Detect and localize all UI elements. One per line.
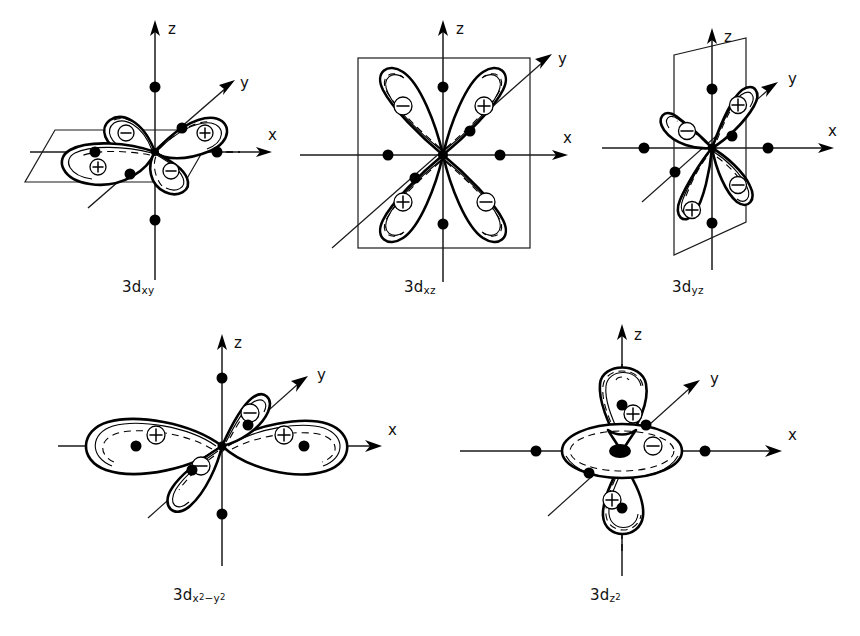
y-axis-label: y: [710, 370, 719, 388]
x-axis-label: x: [563, 129, 572, 147]
z-axis-label: z: [634, 326, 642, 344]
node-dot: [383, 150, 394, 161]
node-dot: [299, 441, 310, 452]
sign-lower-left: [684, 202, 701, 219]
orbital-label-sub: x2−y2: [192, 592, 225, 604]
orbital-label-dxz: 3dxz: [404, 278, 436, 296]
node-dot: [707, 84, 718, 95]
y-axis-label: y: [317, 366, 326, 384]
y-axis-arrowhead: [291, 376, 308, 392]
orbital-label-sub: z2: [609, 592, 620, 604]
origin-dot: [609, 444, 631, 458]
panel-dxy: z y x 3dxy: [0, 0, 290, 320]
node-dot: [584, 468, 595, 479]
origin-dot: [438, 150, 448, 160]
node-dot: [641, 420, 652, 431]
orbital-label-sub: yz: [691, 284, 703, 296]
x-axis-label: x: [788, 426, 797, 444]
sign-upper-right: [475, 97, 493, 115]
node-dot: [531, 446, 542, 457]
orbital-label-dx2y2: 3dx2−y2: [173, 586, 226, 604]
y-axis-label: y: [788, 70, 797, 88]
node-dot: [217, 373, 228, 384]
node-dot: [670, 167, 681, 178]
lobe-upper-right: [443, 68, 506, 155]
z-axis-label: z: [456, 20, 464, 38]
node-dot: [187, 465, 198, 476]
sign-ring-minus: [644, 437, 662, 455]
sign-upper-right: [730, 97, 747, 114]
node-dot: [217, 509, 228, 520]
node-dot: [243, 420, 254, 431]
node-dot: [125, 169, 136, 180]
orbital-label-base: 3d: [672, 278, 691, 296]
node-dot: [763, 143, 774, 154]
node-dot: [465, 126, 476, 137]
node-dot: [410, 173, 421, 184]
node-dot: [438, 82, 449, 93]
node-dot: [438, 219, 449, 230]
node-dot: [639, 143, 650, 154]
dx2y2-diagram: z y x: [40, 318, 440, 598]
x-axis-label: x: [388, 421, 397, 439]
sign-lower-left: [394, 193, 412, 211]
node-dot: [700, 446, 711, 457]
dz2-diagram: z y x: [440, 318, 840, 598]
y-axis-label: y: [240, 74, 249, 92]
dyz-diagram: z y x: [590, 0, 860, 300]
sign-lower-right: [477, 193, 495, 211]
x-axis-label: x: [828, 122, 837, 140]
node-dot: [495, 150, 506, 161]
z-axis-label: z: [724, 28, 732, 46]
dxy-diagram: z y x: [0, 0, 290, 300]
orbital-label-sub: xy: [141, 284, 154, 296]
orbital-label-dz2: 3dz2: [590, 586, 621, 604]
orbital-label-base: 3d: [590, 586, 609, 604]
node-dot: [617, 503, 628, 514]
sign-upper-left: [394, 97, 412, 115]
sign-right-plus: [275, 426, 293, 444]
sign-left-plus: [147, 426, 165, 444]
panel-dyz: z y x 3dyz: [590, 0, 860, 320]
node-dot: [212, 147, 223, 158]
node-dot: [150, 82, 161, 93]
sign-lower-left: [90, 159, 106, 175]
origin-dot: [151, 148, 159, 156]
orbital-label-dxy: 3dxy: [122, 278, 154, 296]
sign-upper-right: [197, 125, 213, 141]
x-axis-label: x: [268, 126, 277, 144]
y-axis-label: y: [558, 50, 567, 68]
sub-z-exp: 2: [615, 592, 621, 602]
origin-dot: [708, 144, 717, 153]
sign-upper-minus: [241, 404, 259, 422]
lobe-upper-left: [380, 68, 443, 155]
lobe-lower-left: [62, 143, 155, 184]
node-dot: [90, 147, 101, 158]
z-axis-label: z: [168, 20, 176, 38]
dxz-diagram: z y x: [290, 0, 590, 300]
panel-dx2y2: z y x 3dx2−y2: [40, 318, 440, 636]
node-dot: [617, 400, 628, 411]
node-dot: [727, 131, 738, 142]
orbital-label-sub: xz: [423, 284, 435, 296]
orbital-label-base: 3d: [404, 278, 423, 296]
sign-upper-left: [118, 125, 134, 141]
sign-upper-left: [679, 123, 696, 140]
sign-lower-right: [730, 177, 747, 194]
orbital-label-base: 3d: [173, 586, 192, 604]
node-dot: [177, 123, 188, 134]
node-dot: [150, 215, 161, 226]
sub-minus: −: [205, 592, 214, 604]
lobe-lower-right: [443, 155, 506, 242]
origin-dot: [218, 442, 227, 451]
node-dot: [707, 218, 718, 229]
orbital-label-dyz: 3dyz: [672, 278, 704, 296]
sub-y-exp: 2: [220, 592, 226, 602]
z-axis-label: z: [234, 334, 242, 352]
panel-dxz: z y x 3dxz: [290, 0, 590, 320]
panel-dz2: z y x 3dz2: [440, 318, 840, 636]
orbital-label-base: 3d: [122, 278, 141, 296]
node-dot: [131, 441, 142, 452]
sign-lower-right: [163, 163, 179, 179]
